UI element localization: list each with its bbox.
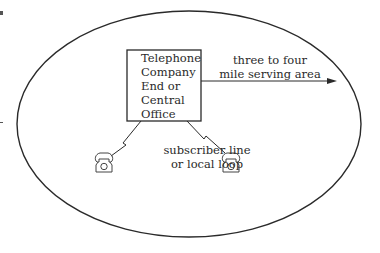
serving-area-line1: three to four	[214, 53, 326, 67]
serving-area-line2: mile serving area	[214, 67, 326, 81]
central-office-line: End or	[141, 79, 201, 93]
serving-area-ellipse	[17, 11, 361, 237]
serving-area-label: three to four mile serving area	[214, 53, 326, 81]
central-office-line: Telephone	[141, 51, 201, 65]
diagram-canvas	[0, 0, 380, 253]
telephone-icon	[95, 153, 112, 172]
subscriber-loop-left	[111, 121, 141, 156]
loop-label-line1: subscriber line	[162, 143, 252, 157]
central-office-line: Company	[141, 65, 201, 79]
central-office-line: Office	[141, 107, 201, 121]
loop-label-line2: or local loop	[162, 157, 252, 171]
central-office-label: Telephone Company End or Central Office	[141, 51, 201, 121]
subscriber-loop-label: subscriber line or local loop	[162, 143, 252, 171]
central-office-line: Central	[141, 93, 201, 107]
